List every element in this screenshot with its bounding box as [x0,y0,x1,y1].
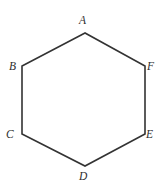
vertex-label-a: A [79,14,86,26]
vertex-label-f: F [147,60,154,72]
hexagon-figure: A B C D E F [0,0,168,195]
vertex-label-e: E [146,128,153,140]
vertex-label-d: D [79,170,87,182]
hexagon-shape [0,0,168,195]
vertex-label-c: C [6,128,14,140]
vertex-label-b: B [9,60,16,72]
